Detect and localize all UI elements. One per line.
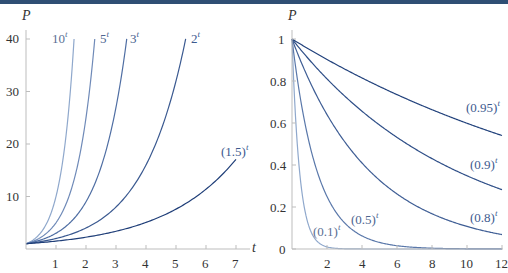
left-x-tick-label: 7 <box>232 256 239 271</box>
curve-10^t <box>26 39 74 244</box>
left-x-tick-label: 2 <box>82 256 89 271</box>
curve-label-2t: 2t <box>191 29 201 46</box>
left-y-tick-label: 40 <box>6 31 19 46</box>
left-x-tick-label: 3 <box>112 256 119 271</box>
right-y-tick-label: 0.4 <box>270 158 287 173</box>
curve-label-0.5t: (0.5)t <box>351 210 379 227</box>
curve-label-0.9t: (0.9)t <box>470 155 498 172</box>
left-y-tick-label: 10 <box>6 189 19 204</box>
curve-(0.95)^t <box>292 39 502 136</box>
curve-5^t <box>26 39 95 244</box>
curve-label-5t: 5t <box>100 29 110 46</box>
left-y-tick-label: 30 <box>6 84 19 99</box>
left-ticks <box>26 39 236 249</box>
left-x-tick-label: 1 <box>52 256 59 271</box>
curve-label-0.95t: (0.95)t <box>466 98 500 115</box>
right-y-tick-label: 0.6 <box>270 116 287 131</box>
left-y-axis-title: P <box>21 8 31 23</box>
left-chart: P t 40 30 20 10 1 2 3 4 5 6 7 10t 5t 3t … <box>6 8 257 271</box>
right-y-tick-label: 0.2 <box>270 200 286 215</box>
left-y-tick-label: 20 <box>6 136 19 151</box>
curve-label-0.8t: (0.8)t <box>470 208 498 225</box>
right-y-tick-label: 0 <box>279 242 286 257</box>
curve-2^t <box>26 39 186 244</box>
right-y-axis-title: P <box>287 8 297 23</box>
right-x-tick-label: 12 <box>495 256 508 271</box>
curve-label-3t: 3t <box>130 29 140 46</box>
left-x-tick-label: 4 <box>142 256 149 271</box>
curve-(1.5)^t <box>26 159 236 243</box>
curve-label-1.5t: (1.5)t <box>221 142 249 159</box>
figure: P t 40 30 20 10 1 2 3 4 5 6 7 10t 5t 3t … <box>0 0 508 273</box>
right-x-tick-label: 10 <box>460 256 473 271</box>
left-x-tick-label: 5 <box>172 256 179 271</box>
left-curves <box>26 39 236 244</box>
left-x-tick-label: 6 <box>202 256 209 271</box>
right-chart: P 1 0.8 0.6 0.4 0.2 0 2 4 6 8 10 12 (0.1… <box>270 8 508 271</box>
curve-label-10t: 10t <box>52 29 68 46</box>
curve-3^t <box>26 39 127 244</box>
curve-label-0.1t: (0.1)t <box>313 222 341 239</box>
right-x-tick-label: 8 <box>429 256 436 271</box>
right-x-tick-label: 4 <box>359 256 366 271</box>
right-x-tick-label: 2 <box>324 256 331 271</box>
right-y-tick-label: 0.8 <box>270 74 286 89</box>
right-x-tick-label: 6 <box>394 256 401 271</box>
left-x-axis-title: t <box>252 240 257 255</box>
right-y-tick-label: 1 <box>278 32 285 47</box>
